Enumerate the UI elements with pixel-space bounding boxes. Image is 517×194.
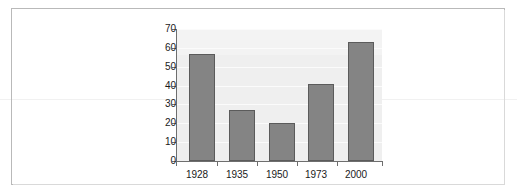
y-tick-label-40: 40	[154, 81, 176, 91]
bar-1935	[229, 110, 255, 161]
bar-2000	[348, 42, 374, 161]
y-tick-label-10: 10	[154, 137, 176, 147]
screenshot-root: 70 60 50 40 30 20 10 0	[0, 0, 517, 194]
x-tick-mark-3	[297, 162, 298, 166]
x-tick-mark-1	[217, 162, 218, 166]
x-tick-label-1935: 1935	[217, 169, 257, 180]
x-tick-label-1928: 1928	[177, 169, 217, 180]
bars-layer	[177, 29, 383, 161]
bar-1973	[308, 84, 334, 161]
x-tick-label-2000: 2000	[336, 169, 376, 180]
y-axis-ticks: 70 60 50 40 30 20 10 0	[149, 23, 176, 168]
y-tick-label-70: 70	[154, 24, 176, 34]
bar-chart: 70 60 50 40 30 20 10 0	[149, 23, 389, 188]
bar-1928	[189, 54, 215, 161]
y-tick-label-60: 60	[154, 43, 176, 53]
x-tick-mark-0	[176, 162, 177, 166]
y-axis-line	[176, 29, 177, 162]
y-tick-label-20: 20	[154, 118, 176, 128]
x-tick-label-1950: 1950	[257, 169, 297, 180]
x-axis-line	[176, 161, 383, 162]
y-tick-label-0: 0	[154, 156, 176, 166]
figure-frame: 70 60 50 40 30 20 10 0	[11, 8, 505, 185]
x-tick-mark-2	[257, 162, 258, 166]
y-tick-label-50: 50	[154, 62, 176, 72]
x-tick-label-1973: 1973	[296, 169, 336, 180]
x-tick-mark-5	[382, 162, 383, 166]
y-tick-label-30: 30	[154, 99, 176, 109]
x-tick-mark-4	[337, 162, 338, 166]
bar-1950	[269, 123, 295, 161]
